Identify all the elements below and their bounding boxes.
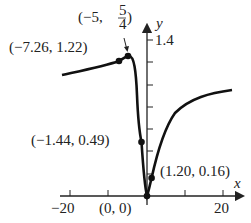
x-axis-label: x bbox=[233, 175, 241, 191]
point-label-4: (1.20, 0.16) bbox=[160, 163, 230, 180]
y-tick-label-top: 1.4 bbox=[155, 32, 174, 48]
chart: (−5, 5 4 ) (−7.26, 1.22) (−1.44, 0.49) (… bbox=[0, 0, 251, 223]
max-label-suffix: ) bbox=[127, 9, 132, 26]
origin-label: (0, 0) bbox=[99, 200, 132, 217]
point-label-1: (−7.26, 1.22) bbox=[9, 39, 87, 56]
max-frac-den: 4 bbox=[119, 16, 127, 32]
x-tick-label-min: −20 bbox=[51, 200, 74, 216]
y-ticks bbox=[147, 40, 153, 174]
max-label-prefix: (−5, bbox=[78, 9, 103, 26]
point-label-3: (−1.44, 0.49) bbox=[31, 132, 109, 149]
y-axis-label: y bbox=[154, 15, 163, 31]
x-tick-label-max: 20 bbox=[214, 200, 229, 216]
